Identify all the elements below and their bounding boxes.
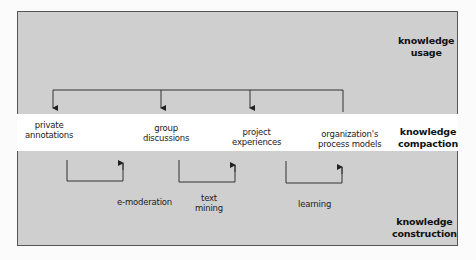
bracket-text-mining: [179, 160, 235, 182]
layer-label-compaction: knowledge compaction: [398, 126, 458, 150]
artifact-private-annotations: private annotations: [25, 120, 73, 140]
process-text-mining: text mining: [195, 193, 223, 213]
process-learning: learning: [298, 199, 331, 209]
artifact-process-models: organization's process models: [318, 129, 381, 149]
bracket-e-moderation: [67, 160, 123, 181]
artifact-project-experiences: project experiences: [232, 127, 281, 147]
process-e-moderation: e-moderation: [117, 197, 172, 207]
bracket-learning: [286, 161, 342, 183]
artifact-group-discussions: group discussions: [143, 123, 189, 143]
layer-label-usage: knowledge usage: [398, 35, 454, 59]
layer-label-construction: knowledge construction: [392, 216, 457, 240]
